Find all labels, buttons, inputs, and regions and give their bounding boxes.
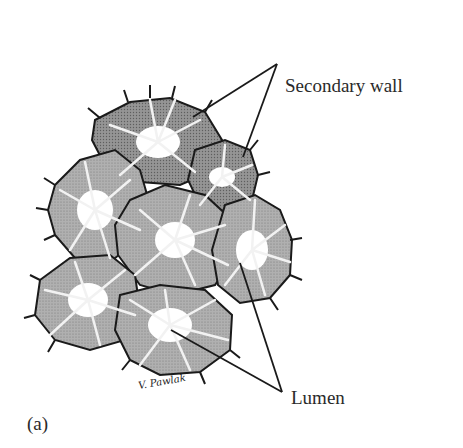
label-secondary-wall: Secondary wall [285,76,403,95]
diagram-figure: Secondary wall Lumen (a) V. Pawlak [0,0,463,448]
label-lumen: Lumen [291,388,345,407]
cell-cluster-drawing [0,0,463,448]
panel-label: (a) [27,414,48,433]
